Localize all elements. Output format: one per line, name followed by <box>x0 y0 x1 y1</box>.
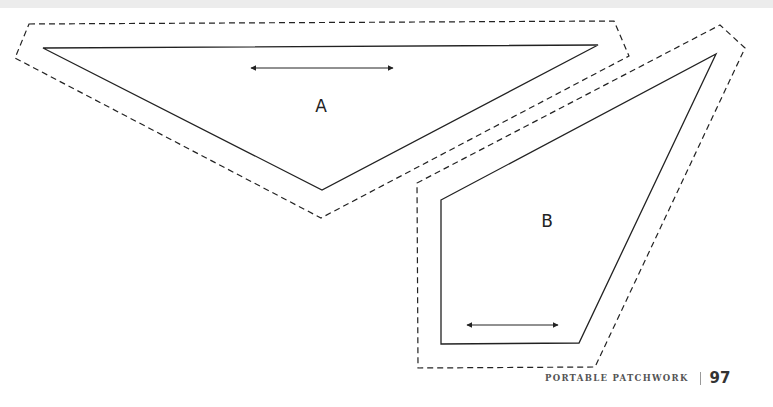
book-title: PORTABLE PATCHWORK <box>545 373 689 383</box>
piece-b <box>417 25 745 368</box>
footer-divider <box>700 372 701 385</box>
page-footer: PORTABLE PATCHWORK 97 <box>545 368 745 388</box>
piece-b-cutting-line <box>417 25 745 368</box>
piece-a <box>15 21 629 218</box>
piece-a-cutting-line <box>15 21 629 218</box>
page-number: 97 <box>710 369 731 387</box>
piece-a-label: A <box>315 96 327 116</box>
piece-b-sewing-line <box>441 54 716 344</box>
template-pattern <box>0 0 773 407</box>
piece-b-label: B <box>541 211 553 231</box>
piece-a-sewing-line <box>43 45 598 190</box>
